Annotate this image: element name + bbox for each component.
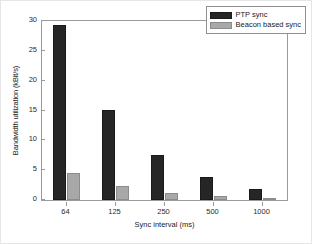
y-tick-mark [41,20,45,21]
x-axis-ticks: 641252505001000 [41,202,288,218]
y-tick-mark [41,139,45,140]
bar [151,155,164,200]
bar [263,198,276,200]
bar [214,196,227,200]
y-axis-label: Bandwidth utilization (kBit/s) [11,20,25,201]
x-tick-label: 250 [157,207,170,216]
y-tick-mark [41,169,45,170]
bar [116,186,129,200]
x-tick-mark [164,202,165,206]
y-tick-mark [41,50,45,51]
x-tick-mark [115,202,116,206]
x-axis-label: Sync interval (ms) [41,220,288,229]
chart-legend: PTP syncBeacon based sync [206,6,306,34]
legend-item[interactable]: PTP sync [210,10,301,20]
x-tick-mark [213,202,214,206]
legend-swatch-icon [210,12,232,19]
x-tick-label: 1000 [253,207,270,216]
legend-item-label: PTP sync [236,11,268,19]
bar [102,110,115,200]
legend-item-label: Beacon based sync [236,21,301,29]
x-tick-label: 125 [108,207,121,216]
y-tick-mark [41,199,45,200]
y-tick-mark [41,80,45,81]
legend-swatch-icon [210,22,232,29]
chart-figure: 051015202530 Bandwidth utilization (kBit… [0,0,312,244]
x-tick-label: 500 [206,207,219,216]
legend-item[interactable]: Beacon based sync [210,20,301,30]
x-tick-label: 64 [61,207,69,216]
plot-area [41,20,288,201]
y-tick-mark [41,110,45,111]
bar [249,189,262,200]
bar [67,173,80,200]
x-tick-mark [262,202,263,206]
bar [165,193,178,200]
x-tick-mark [66,202,67,206]
bar [200,177,213,200]
bar [53,25,66,200]
